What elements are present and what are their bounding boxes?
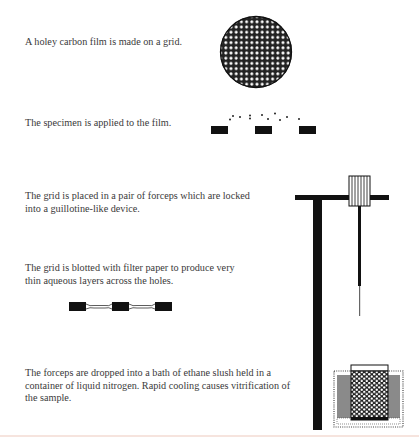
step-3-text: The grid is placed in a pair of forceps … [25, 190, 265, 215]
bottom-rule [0, 435, 419, 437]
step-1-text: A holey carbon film is made on a grid. [25, 36, 182, 49]
holey-carbon-grid-figure [218, 14, 294, 90]
blotted-thin-layers-figure [68, 300, 174, 314]
guillotine-crossbar [295, 195, 389, 200]
specimen-on-film-figure [208, 112, 318, 136]
step-2-text: The specimen is applied to the film. [25, 117, 171, 130]
guillotine-post [313, 198, 322, 430]
ethane-bath-figure [333, 360, 405, 432]
step-4-text: The grid is blotted with filter paper to… [25, 262, 245, 287]
step-5-text: The forceps are dropped into a bath of e… [25, 367, 295, 405]
